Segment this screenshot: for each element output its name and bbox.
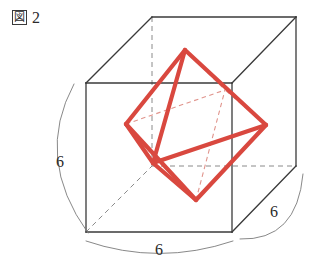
figure-box-glyph: 図: [12, 10, 27, 25]
dimension-arcs: [57, 84, 303, 254]
dimension-label-bottom: 6: [155, 242, 163, 258]
figure-number: 2: [32, 10, 41, 26]
octahedron-hidden-edges: [126, 50, 266, 200]
figure-caption: 図2: [12, 10, 41, 26]
cube-edge-top-left-depth: [86, 17, 152, 83]
dimension-label-right: 6: [270, 204, 278, 220]
cube-hidden-edge-bottom-left-depth: [86, 166, 152, 232]
figure-container: 図2 6 6 6: [0, 0, 318, 277]
dimension-label-left: 6: [56, 154, 64, 170]
cube-edge-top-right-depth: [232, 17, 296, 83]
octahedron-edge-bottom-front: [153, 163, 196, 200]
geometry-diagram: [0, 0, 318, 277]
octahedron-visible-edges: [126, 50, 266, 200]
